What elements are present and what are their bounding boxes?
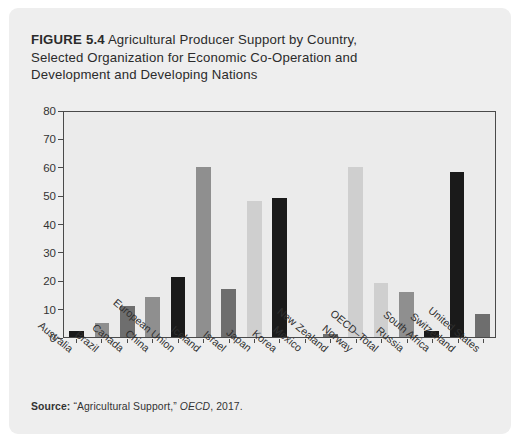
- x-axis-tick: New Zealand: [318, 339, 343, 401]
- y-axis-tick: 20: [9, 275, 63, 287]
- bar[interactable]: [450, 172, 465, 337]
- y-axis-tick: 80: [9, 105, 63, 117]
- x-axis-tick: Korea: [267, 339, 292, 401]
- x-axis-tick: European Union: [165, 339, 190, 401]
- source-label: Source:: [31, 401, 70, 412]
- source-publisher: OECD: [180, 401, 210, 412]
- bar-slot[interactable]: [165, 112, 190, 337]
- bar-slot[interactable]: [368, 112, 393, 337]
- x-axis: AustraliaBrazilCanadaChinaEuropean Union…: [63, 339, 496, 401]
- x-axis-tick: Brazil: [88, 339, 113, 401]
- x-axis-tick: Norway: [343, 339, 368, 401]
- x-axis-tick: South Africa: [420, 339, 445, 401]
- x-axis-tick-mark: [483, 339, 484, 343]
- source-year: , 2017.: [210, 401, 242, 412]
- x-axis-tick: United States: [471, 339, 496, 401]
- bar[interactable]: [196, 167, 211, 337]
- bar-slot[interactable]: [470, 112, 495, 337]
- source-note: Source: “Agricultural Support,” OECD, 20…: [31, 401, 243, 412]
- bar-slot[interactable]: [216, 112, 241, 337]
- bar[interactable]: [247, 201, 262, 337]
- bar-slot[interactable]: [343, 112, 368, 337]
- y-axis-tick-label: 10: [43, 304, 56, 316]
- bar[interactable]: [475, 314, 490, 337]
- y-axis: 01020304050607080: [9, 111, 63, 338]
- source-citation: “Agricultural Support,”: [73, 401, 176, 412]
- x-axis-tick: Russia: [394, 339, 419, 401]
- bar-slot[interactable]: [444, 112, 469, 337]
- x-axis-tick: Mexico: [292, 339, 317, 401]
- y-axis-tick-label: 50: [43, 190, 56, 202]
- bar-slot[interactable]: [419, 112, 444, 337]
- figure-number: FIGURE 5.4: [31, 32, 105, 47]
- y-axis-tick-label: 30: [43, 247, 56, 259]
- y-axis-tick-label: 40: [43, 219, 56, 231]
- y-axis-tick-label: 60: [43, 162, 56, 174]
- x-axis-tick: Canada: [114, 339, 139, 401]
- x-axis-tick: Australia: [63, 339, 88, 401]
- x-axis-tick: Switzerland: [445, 339, 470, 401]
- y-axis-tick-label: 20: [43, 275, 56, 287]
- bar-slot[interactable]: [191, 112, 216, 337]
- x-axis-tick: Iceland: [190, 339, 215, 401]
- bar-slot[interactable]: [89, 112, 114, 337]
- bar-slot[interactable]: [267, 112, 292, 337]
- y-axis-tick: 30: [9, 247, 63, 259]
- figure-card: FIGURE 5.4 Agricultural Producer Support…: [9, 8, 511, 434]
- bar[interactable]: [348, 167, 363, 337]
- y-axis-tick: 10: [9, 304, 63, 316]
- y-axis-tick: 70: [9, 133, 63, 145]
- figure-title-line-1: Agricultural Producer Support by Country…: [108, 32, 357, 47]
- bar-slot[interactable]: [242, 112, 267, 337]
- figure-title: FIGURE 5.4 Agricultural Producer Support…: [31, 31, 486, 84]
- x-axis-tick: China: [139, 339, 164, 401]
- y-axis-tick: 40: [9, 219, 63, 231]
- bar-slot[interactable]: [394, 112, 419, 337]
- bar-slot[interactable]: [64, 112, 89, 337]
- bar-slot[interactable]: [292, 112, 317, 337]
- x-axis-tick: Israel: [216, 339, 241, 401]
- y-axis-tick: 60: [9, 162, 63, 174]
- bar-slot[interactable]: [140, 112, 165, 337]
- figure-title-line-2: Selected Organization for Economic Co-Op…: [31, 50, 358, 65]
- x-axis-tick: OECD–Total: [369, 339, 394, 401]
- y-axis-tick: 50: [9, 190, 63, 202]
- figure-title-line-3: Development and Developing Nations: [31, 67, 258, 82]
- y-axis-tick-label: 80: [43, 105, 56, 117]
- y-axis-tick-label: 70: [43, 133, 56, 145]
- x-axis-tick: Japan: [241, 339, 266, 401]
- bar-slot[interactable]: [318, 112, 343, 337]
